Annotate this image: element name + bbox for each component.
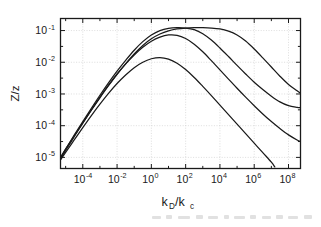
svg-text:/k: /k [175,195,185,209]
data-curve-1 [61,28,301,158]
svg-text:10: 10 [142,173,154,185]
y-tick-label-3: 10-4 [35,118,55,132]
x-tick-label-3: 102 [177,171,193,185]
x-axis-title: kD/kc [162,195,195,211]
chart-svg: 10-410-2100102104106108 10-110-210-310-4… [0,0,321,227]
y-tick-label-1: 10-2 [35,54,55,68]
svg-text:-4: -4 [86,171,92,180]
svg-text:-5: -5 [49,149,55,158]
svg-text:2: 2 [189,171,193,180]
x-tick-label-1: 10-2 [108,171,127,185]
svg-text:k: k [162,195,169,209]
svg-text:10: 10 [177,173,189,185]
svg-text:-2: -2 [49,54,55,63]
y-axis-title: Z/z [9,85,21,101]
x-tick-label-4: 104 [211,171,227,185]
axis-titles: Z/zkD/kc [9,85,194,210]
svg-text:6: 6 [257,171,261,180]
svg-text:10: 10 [35,88,47,100]
grid-layer [61,19,301,169]
svg-text:10: 10 [35,56,47,68]
svg-text:-1: -1 [49,23,55,32]
svg-text:Z/z: Z/z [9,85,21,101]
bottom-margin [0,211,321,227]
svg-text:c: c [190,202,194,211]
svg-text:10: 10 [279,173,291,185]
y-tick-label-2: 10-3 [35,86,55,100]
x-tick-label-0: 10-4 [74,171,93,185]
svg-text:-2: -2 [120,171,126,180]
x-tick-label-2: 100 [142,171,158,185]
svg-text:0: 0 [154,171,158,180]
svg-text:10: 10 [35,119,47,131]
svg-text:-3: -3 [49,86,55,95]
data-curve-3 [61,35,301,159]
svg-text:-4: -4 [49,118,55,127]
data-curve-4 [61,58,275,167]
y-tick-label-4: 10-5 [35,149,55,163]
figure-container: 10-410-2100102104106108 10-110-210-310-4… [0,0,321,227]
x-tick-label-6: 108 [279,171,295,185]
svg-text:10: 10 [108,173,120,185]
svg-text:10: 10 [211,173,223,185]
svg-text:10: 10 [245,173,257,185]
svg-text:4: 4 [223,171,227,180]
svg-text:10: 10 [35,151,47,163]
x-tick-label-5: 106 [245,171,261,185]
y-tick-labels: 10-110-210-310-410-5 [35,23,55,163]
data-curve-2 [61,28,301,158]
x-tick-labels: 10-410-2100102104106108 [74,171,296,185]
tick-marks [61,19,301,169]
y-tick-label-0: 10-1 [35,23,55,37]
plot-frame [61,19,301,169]
svg-text:10: 10 [35,24,47,36]
svg-text:8: 8 [292,171,296,180]
svg-text:10: 10 [74,173,86,185]
curves-layer [61,28,301,167]
